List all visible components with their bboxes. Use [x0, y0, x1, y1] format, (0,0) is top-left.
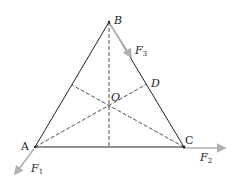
dot-b — [108, 21, 110, 23]
force-f3-arrow — [110, 24, 131, 57]
dot-a — [34, 146, 36, 148]
median-a — [35, 84, 147, 147]
label-b: B — [114, 15, 122, 26]
label-f1: F1 — [31, 163, 43, 176]
label-f2: F2 — [200, 152, 212, 165]
label-a: A — [21, 141, 29, 152]
label-f3: F3 — [135, 45, 147, 58]
triangle-force-diagram: B D O A C F3 F1 F2 — [0, 0, 235, 193]
side-ab — [35, 22, 109, 147]
medians — [35, 22, 184, 147]
median-c — [72, 85, 184, 147]
label-d: D — [151, 78, 160, 89]
label-o: O — [111, 92, 120, 103]
vertex-dots — [34, 21, 186, 149]
label-c: C — [185, 135, 193, 146]
triangle-sides — [35, 22, 184, 147]
